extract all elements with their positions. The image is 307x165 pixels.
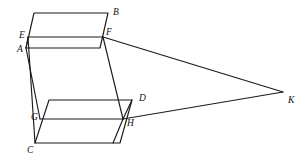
segment-H-K [123,92,283,119]
vertex-label-G: G [31,112,38,122]
segment-F-K [103,37,283,92]
upper-plane-group [26,13,108,48]
vertex-label-E: E [18,30,25,40]
vertex-label-B: B [113,7,119,17]
upper-parallelogram-outline [26,13,108,48]
segment-F-H [103,37,123,119]
vertex-label-A: A [16,44,23,54]
vertex-labels-group: A B C D E F G H K [16,7,295,155]
vertex-label-F: F [105,27,112,37]
vertex-label-D: D [138,93,146,103]
transversal-lines-group [26,37,283,143]
vertex-label-H: H [126,118,135,128]
vertex-label-C: C [27,145,34,155]
lower-plane-group [35,100,132,143]
geometry-canvas: A B C D E F G H K [0,0,307,165]
geometry-figure: A B C D E F G H K [0,0,307,165]
vertex-label-K: K [287,95,295,105]
lower-parallelogram-outline [35,100,132,143]
